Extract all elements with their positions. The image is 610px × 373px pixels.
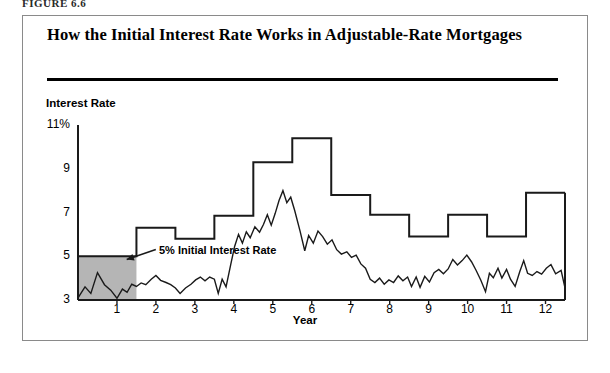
x-tick-label-1: 1 xyxy=(105,302,129,316)
shaded-initial-rate-region xyxy=(78,256,136,300)
initial-rate-annotation-label: 5% Initial Interest Rate xyxy=(159,244,276,256)
chart-canvas xyxy=(0,0,610,373)
x-tick-label-8: 8 xyxy=(378,302,402,316)
y-tick-label-11: 11% xyxy=(36,117,70,131)
series-line-2 xyxy=(78,191,565,299)
x-tick-label-2: 2 xyxy=(144,302,168,316)
y-tick-label-3: 3 xyxy=(36,292,70,306)
x-tick-label-6: 6 xyxy=(300,302,324,316)
x-tick-label-12: 12 xyxy=(534,302,558,316)
x-tick-label-9: 9 xyxy=(417,302,441,316)
y-tick-label-9: 9 xyxy=(36,161,70,175)
x-tick-label-10: 10 xyxy=(456,302,480,316)
chart-plot-area xyxy=(0,0,610,373)
x-tick-label-3: 3 xyxy=(183,302,207,316)
series-line-1 xyxy=(78,138,565,256)
x-tick-label-5: 5 xyxy=(261,302,285,316)
x-tick-label-11: 11 xyxy=(495,302,519,316)
y-tick-label-5: 5 xyxy=(36,248,70,262)
x-tick-label-4: 4 xyxy=(222,302,246,316)
y-tick-label-7: 7 xyxy=(36,205,70,219)
x-tick-label-7: 7 xyxy=(339,302,363,316)
